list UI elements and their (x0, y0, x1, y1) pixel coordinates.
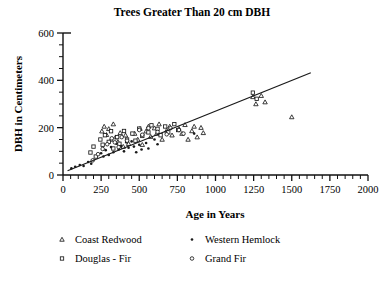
x-tick-label: 0 (60, 184, 65, 195)
legend-entry[interactable]: Western Hemlock (191, 234, 281, 245)
point-marker-open-circle (110, 137, 114, 141)
point-marker-open-square (60, 257, 63, 260)
point-marker-open-square (163, 125, 166, 128)
point-marker-filled-dot (140, 148, 143, 151)
point-marker-open-square (89, 151, 92, 154)
point-marker-open-square (101, 143, 104, 146)
point-marker-open-square (99, 138, 102, 141)
point-marker-filled-dot (193, 132, 196, 135)
point-marker-filled-dot (153, 138, 156, 141)
x-tick-label: 1750 (319, 184, 340, 195)
point-marker-open-circle (120, 135, 124, 139)
point-marker-open-circle (156, 130, 160, 134)
point-marker-open-circle (147, 126, 151, 130)
point-marker-open-circle (177, 128, 181, 132)
legend-label: Grand Fir (205, 253, 247, 264)
x-tick-label: 1250 (243, 184, 264, 195)
y-axis-label: DBH in Centimeters (12, 55, 24, 152)
point-marker-filled-dot (138, 143, 141, 146)
legend-label: Douglas - Fir (75, 253, 132, 264)
point-marker-open-circle (125, 139, 129, 143)
point-marker-filled-dot (133, 145, 136, 148)
point-marker-open-circle (165, 133, 169, 137)
y-tick-label: 400 (38, 75, 54, 86)
point-marker-open-square (131, 132, 134, 135)
point-marker-open-circle (190, 257, 194, 261)
point-marker-filled-dot (145, 142, 148, 145)
chart-figure: Trees Greater Than 20 cm DBH DBH in Cent… (0, 0, 385, 283)
point-marker-open-square (251, 91, 254, 94)
point-marker-open-square (255, 97, 258, 100)
x-tick-label: 250 (93, 184, 109, 195)
point-marker-filled-dot (156, 143, 159, 146)
point-marker-open-circle (117, 145, 121, 149)
y-tick-label: 200 (38, 123, 54, 134)
point-marker-filled-dot (130, 140, 133, 143)
x-tick-label: 500 (131, 184, 147, 195)
point-marker-open-square (150, 124, 153, 127)
point-marker-open-circle (137, 128, 141, 132)
x-tick-label: 1500 (281, 184, 302, 195)
point-marker-open-circle (96, 152, 100, 156)
y-tick-label: 0 (49, 170, 54, 181)
point-marker-filled-dot (147, 147, 150, 150)
point-marker-open-circle (182, 132, 186, 136)
point-marker-filled-dot (135, 151, 138, 154)
x-axis-label: Age in Years (186, 208, 246, 220)
point-marker-filled-dot (90, 162, 93, 165)
point-marker-open-square (92, 145, 95, 148)
point-marker-filled-dot (110, 146, 113, 149)
point-marker-open-circle (101, 147, 105, 151)
point-marker-open-square (109, 130, 112, 133)
chart-title: Trees Greater Than 20 cm DBH (114, 6, 270, 18)
point-marker-open-square (122, 129, 125, 132)
point-marker-open-square (134, 139, 137, 142)
scatter-plot-svg: Trees Greater Than 20 cm DBH DBH in Cent… (0, 0, 385, 283)
point-marker-open-circle (141, 133, 145, 137)
legend-label: Coast Redwood (75, 234, 143, 245)
point-marker-open-circle (105, 142, 109, 146)
legend-label: Western Hemlock (205, 234, 281, 245)
point-marker-open-circle (113, 141, 117, 145)
point-marker-open-square (103, 134, 106, 137)
point-marker-filled-dot (123, 150, 126, 153)
point-marker-filled-dot (191, 238, 194, 241)
x-tick-label: 750 (170, 184, 186, 195)
point-marker-open-square (147, 131, 150, 134)
point-marker-open-square (115, 135, 118, 138)
x-tick-label: 2000 (358, 184, 379, 195)
x-tick-label: 1000 (205, 184, 226, 195)
point-marker-open-square (173, 122, 176, 125)
y-tick-label: 600 (38, 28, 54, 39)
